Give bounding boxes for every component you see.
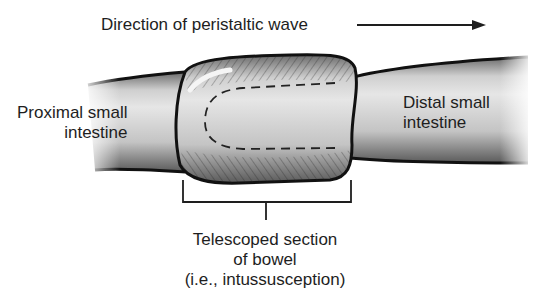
distal-line-2: intestine [403,113,490,133]
telescoped-line-1: Telescoped section [150,230,380,250]
distal-line-1: Distal small [403,93,490,113]
bracket [183,180,351,220]
arrow-right-icon [357,20,486,30]
telescoped-section-shape [176,55,356,183]
peristaltic-direction-label: Direction of peristaltic wave [101,15,308,35]
telescoped-section-label: Telescoped section of bowel (i.e., intus… [150,230,380,290]
telescoped-line-3: (i.e., intussusception) [150,270,380,290]
proximal-intestine-label: Proximal small intestine [17,103,128,143]
proximal-line-2: intestine [17,123,128,143]
proximal-line-1: Proximal small [17,103,128,123]
telescoped-line-2: of bowel [150,250,380,270]
distal-intestine-label: Distal small intestine [403,93,490,133]
